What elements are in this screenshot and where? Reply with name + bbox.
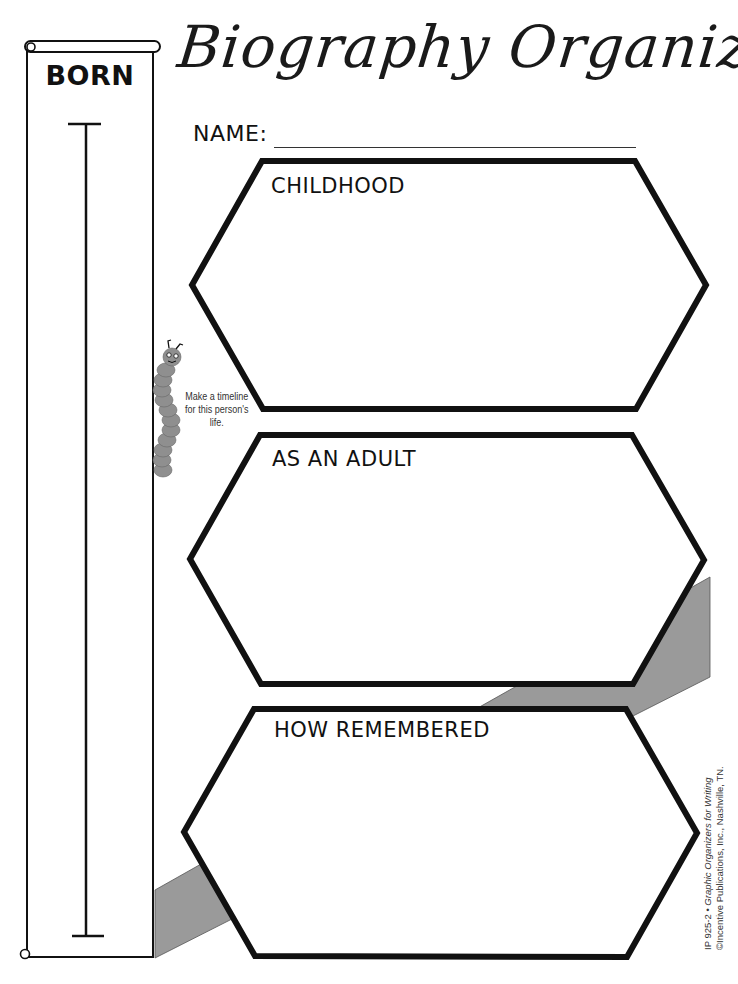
timeline-hint: Make a timeline for this person's life. <box>184 390 250 429</box>
childhood-label: CHILDHOOD <box>271 174 405 198</box>
page-title: Biography Organizer <box>173 2 712 92</box>
credit-book-title: Graphic Organizers for Writing <box>702 777 713 905</box>
name-label: NAME: <box>193 121 267 146</box>
remembered-writing-area[interactable] <box>242 752 646 951</box>
credit-code: IP 925-2 • <box>702 906 713 950</box>
timeline-born-label: BORN <box>28 60 152 91</box>
childhood-writing-area[interactable] <box>250 205 654 404</box>
remembered-label: HOW REMEMBERED <box>274 718 490 742</box>
timeline-scroll <box>21 41 161 959</box>
adult-label: AS AN ADULT <box>272 447 416 471</box>
credit-publisher: ©Incentive Publications, Inc., Nashville… <box>714 700 726 950</box>
name-input[interactable] <box>276 124 640 150</box>
adult-writing-area[interactable] <box>248 480 652 679</box>
publisher-credit: IP 925-2 • Graphic Organizers for Writin… <box>702 700 736 950</box>
caterpillar-icon <box>153 340 183 477</box>
